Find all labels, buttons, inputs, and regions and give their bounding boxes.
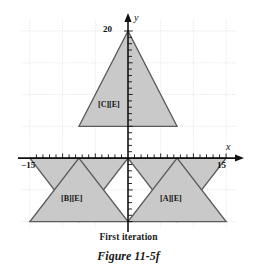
- triangle-label-C-E: [C][E]: [98, 100, 120, 109]
- y-axis-label: y: [134, 12, 138, 23]
- triangle-label-B-E: [B][E]: [61, 194, 82, 203]
- figure-caption: Figure 11-5f: [0, 249, 257, 264]
- x-tick-label-15: 15: [217, 160, 226, 170]
- iteration-caption: First iteration: [0, 232, 257, 242]
- triangle-label-A-E: [A][E]: [160, 194, 182, 203]
- y-tick-label-20: 20: [103, 24, 112, 34]
- x-tick-label-minus15: −15: [21, 160, 35, 170]
- sierpinski-first-iteration-plot: [0, 0, 257, 269]
- figure-11-5f: 20 y x −15 15 [C][E] [B][E] [A][E] First…: [0, 0, 257, 269]
- x-axis-label: x: [226, 141, 230, 152]
